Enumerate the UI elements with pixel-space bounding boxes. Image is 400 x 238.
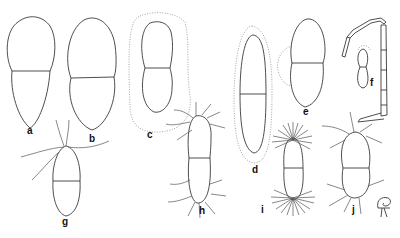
stalk-detail-icon [378,197,391,217]
basal-spines [271,190,315,216]
label-c: c [147,129,153,140]
specimen-b: b [68,18,116,144]
specimen-g: g [21,120,109,227]
specimen-e: e [278,19,325,117]
label-h: h [199,205,205,216]
label-b: b [89,133,95,144]
label-f: f [370,77,374,88]
specimen-f: f [342,18,387,122]
label-a: a [27,125,33,136]
apical-spines [272,122,312,149]
label-i: i [261,204,264,215]
specimen-h: h [166,102,226,218]
label-d: d [252,164,258,175]
specimen-j: j [322,112,384,215]
label-e: e [303,106,309,117]
figure-canvas: a b c d e f [0,0,400,238]
label-j: j [351,204,355,215]
specimen-c: c [129,13,190,140]
specimen-i: i [261,122,315,216]
specimen-d: d [234,26,272,175]
specimen-a: a [7,17,55,136]
label-g: g [62,216,68,227]
